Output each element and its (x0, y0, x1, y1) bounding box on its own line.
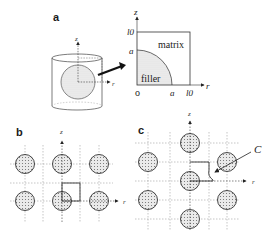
filler-label: filler (141, 73, 161, 84)
tick-r-l0: l0 (186, 88, 194, 98)
b-z-label: z (59, 128, 63, 136)
c-r-label: r (252, 178, 255, 186)
tick-r-a: a (170, 88, 175, 98)
figure: a z r z r l0 a (0, 0, 269, 239)
cyl-z-label: z (74, 35, 78, 43)
unit-cell-cross-section: z r l0 a o a l0 matrix filler (127, 7, 210, 98)
b-r-label: r (123, 198, 126, 206)
c-z-label: z (187, 110, 191, 118)
origin-label: o (135, 87, 140, 98)
cyl-r-label: r (112, 80, 115, 88)
callout-label: C (254, 143, 262, 155)
panel-a-label: a (53, 11, 60, 23)
panel-a: a z r z r l0 a (52, 7, 210, 110)
cs-r-label: r (206, 81, 210, 91)
panel-b-label: b (16, 126, 23, 138)
panel-c: c z r C (135, 110, 262, 230)
tick-z-l0: l0 (127, 27, 135, 37)
panel-b: b z r (10, 126, 126, 222)
panel-c-label: c (138, 124, 144, 136)
cs-z-label: z (133, 7, 138, 17)
matrix-label: matrix (158, 39, 184, 50)
tick-z-a: a (129, 46, 134, 56)
zoom-arrow (98, 66, 122, 75)
